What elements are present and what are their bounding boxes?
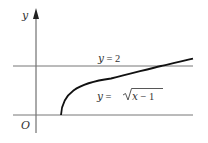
line-eq-rest: = 2 xyxy=(104,53,120,64)
curve-equation-label: y = xyxy=(96,90,112,102)
y-axis-arrow-icon xyxy=(33,8,39,19)
radicand: x − 1 xyxy=(132,90,154,102)
curve-eq-rest: − 1 xyxy=(138,91,154,102)
line-equation-label: y = 2 xyxy=(97,52,120,64)
curve-sqrt xyxy=(61,59,193,115)
graph-figure: y O y = 2 y = x − 1 xyxy=(0,0,208,143)
origin-label: O xyxy=(21,119,30,132)
curve-eq-eq: = xyxy=(103,91,112,102)
y-axis-label: y xyxy=(21,9,29,22)
